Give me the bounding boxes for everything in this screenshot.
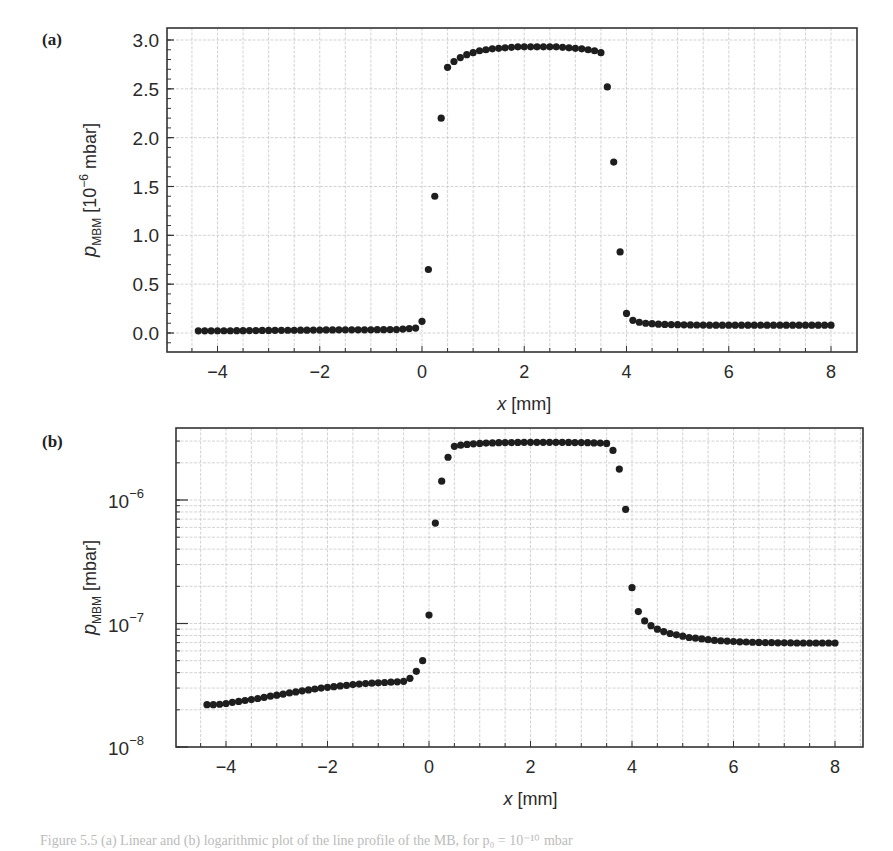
data-series [195,43,835,334]
data-point [292,688,299,695]
data-point [259,327,266,334]
y-tick-label: 2.5 [133,79,159,100]
data-point [685,634,692,641]
data-point [819,639,826,646]
data-point [755,639,762,646]
data-point [463,51,470,58]
data-point [781,639,788,646]
data-point [527,439,534,446]
data-point [751,322,758,329]
data-point [795,322,802,329]
data-point [552,439,559,446]
data-point [318,684,325,691]
data-point [679,633,686,640]
data-point [246,327,253,334]
data-point [661,321,668,328]
data-point [787,639,794,646]
axes-frame [176,428,863,747]
data-point [687,321,694,328]
data-point [419,657,426,664]
data-point [406,325,413,332]
data-point [666,630,673,637]
data-point [356,681,363,688]
data-point [610,158,617,165]
data-point [623,310,630,317]
data-point [521,439,528,446]
data-point [482,439,489,446]
data-point [425,266,432,273]
data-point [348,326,355,333]
data-point [470,49,477,56]
data-point [216,701,223,708]
data-point [393,326,400,333]
y-tick-label: 1.5 [133,177,159,198]
data-point [450,58,457,65]
data-point [273,692,280,699]
data-point [457,442,464,449]
data-point [559,439,566,446]
data-point [648,320,655,327]
data-series [203,439,838,709]
data-point [324,684,331,691]
data-point [768,639,775,646]
x-tick-label: 4 [627,757,637,777]
data-point [527,43,534,50]
data-point [299,687,306,694]
data-point [239,327,246,334]
data-point [800,639,807,646]
data-point [495,45,502,52]
data-point [252,327,259,334]
data-point [489,439,496,446]
data-point [730,638,737,645]
y-tick-label: 2.0 [133,128,159,149]
data-point [329,326,336,333]
data-point [394,678,401,685]
data-point [476,47,483,54]
data-point [806,639,813,646]
data-point [387,679,394,686]
x-tick-label: −4 [207,362,228,382]
data-point [267,693,274,700]
data-point [305,686,312,693]
x-tick-label: 6 [728,757,738,777]
x-tick-label: −4 [216,757,237,777]
data-point [470,440,477,447]
data-point [719,322,726,329]
data-point [732,322,739,329]
data-point [279,691,286,698]
data-point [425,611,432,618]
data-point [808,322,815,329]
data-point [584,439,591,446]
x-axis-label: x [mm] [503,789,558,809]
data-point [241,697,248,704]
data-point [375,679,382,686]
data-point [463,441,470,448]
data-point [330,683,337,690]
data-point [700,321,707,328]
data-point [827,322,834,329]
data-point [642,320,649,327]
y-tick-label: 1.0 [133,225,159,246]
axes-frame [167,28,857,352]
data-point [553,43,560,50]
data-point [227,327,234,334]
data-point [757,322,764,329]
linear-plot: −4−2024680.00.51.01.52.02.53.0x [mm]pMBM… [0,0,893,420]
data-point [195,327,202,334]
data-point [654,626,661,633]
x-tick-label: 0 [417,362,427,382]
data-point [802,322,809,329]
data-point [284,327,291,334]
x-tick-label: 8 [830,757,840,777]
data-point [783,322,790,329]
x-tick-label: 8 [826,362,836,382]
data-point [310,326,317,333]
y-tick-label: 10−7 [108,610,144,636]
data-point [361,326,368,333]
data-point [418,318,425,325]
data-point [749,639,756,646]
data-point [831,639,838,646]
data-point [386,326,393,333]
data-point [793,639,800,646]
data-point [591,47,598,54]
